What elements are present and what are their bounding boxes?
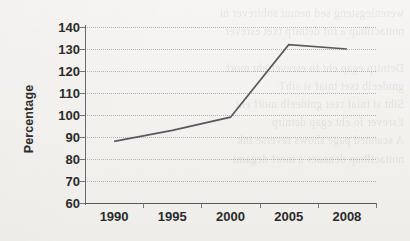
y-axis-tick-label: 120 bbox=[46, 64, 80, 79]
y-axis-tick-140 bbox=[79, 27, 85, 28]
x-axis-tick-label: 2000 bbox=[201, 209, 261, 224]
gridline-100 bbox=[85, 115, 376, 116]
y-axis-tick-label: 60 bbox=[46, 196, 80, 211]
x-axis-tick-label: 1990 bbox=[84, 209, 144, 224]
y-axis-tick-80 bbox=[79, 159, 85, 160]
x-axis-tick-labels: 19901995200020052008 bbox=[85, 209, 377, 233]
x-axis-tick bbox=[376, 203, 377, 208]
x-axis-tick-label: 2008 bbox=[317, 209, 377, 224]
y-axis-tick-label: 110 bbox=[46, 86, 80, 101]
x-axis-tick-label: 1995 bbox=[142, 209, 202, 224]
y-axis-tick-120 bbox=[79, 71, 85, 72]
gridline-90 bbox=[85, 137, 376, 138]
y-axis-tick-label: 140 bbox=[46, 20, 80, 35]
y-axis-tick-labels: 60708090100110120130140 bbox=[46, 0, 80, 241]
y-axis-tick-110 bbox=[79, 93, 85, 94]
plot-area bbox=[85, 27, 376, 203]
y-axis-tick-label: 100 bbox=[46, 108, 80, 123]
y-axis-tick-90 bbox=[79, 137, 85, 138]
y-axis-title: Percentage bbox=[22, 66, 36, 172]
x-axis-tick bbox=[318, 203, 319, 208]
gridline-70 bbox=[85, 181, 376, 182]
line-chart: wereniegsteng sed nemut sobirever ni noi… bbox=[0, 0, 410, 241]
x-axis-tick-label: 2005 bbox=[259, 209, 319, 224]
gridline-60 bbox=[85, 203, 376, 204]
x-axis-tick bbox=[260, 203, 261, 208]
y-axis-tick-label: 130 bbox=[46, 42, 80, 57]
gridline-80 bbox=[85, 159, 376, 160]
y-axis-tick-60 bbox=[79, 203, 85, 204]
gridline-130 bbox=[85, 49, 376, 50]
gridline-140 bbox=[85, 27, 376, 28]
y-axis-tick-100 bbox=[79, 115, 85, 116]
y-axis-tick-label: 90 bbox=[46, 130, 80, 145]
gridline-120 bbox=[85, 71, 376, 72]
y-axis-tick-label: 70 bbox=[46, 174, 80, 189]
y-axis-tick-label: 80 bbox=[46, 152, 80, 167]
x-axis-tick bbox=[201, 203, 202, 208]
y-axis-tick-130 bbox=[79, 49, 85, 50]
x-axis-tick bbox=[143, 203, 144, 208]
y-axis-tick-70 bbox=[79, 181, 85, 182]
gridline-110 bbox=[85, 93, 376, 94]
